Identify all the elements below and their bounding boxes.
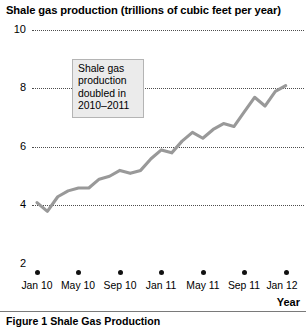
caption-divider [0, 311, 306, 312]
xtick-dot-jan-12 [284, 270, 289, 275]
xtick-dot-jan-11 [159, 270, 164, 275]
xtick-dot-may-10 [76, 270, 81, 275]
annotation-line-4: 2010–2011 [78, 100, 139, 112]
annotation-line-1: Shale gas [78, 63, 139, 75]
plot-area: 10 8 6 4 2 Shale gas production doubled … [0, 0, 306, 306]
xtick-label-jan-12: Jan 12 [255, 280, 306, 292]
xtick-dot-sep-10 [118, 270, 123, 275]
annotation-line-3: doubled in [78, 88, 139, 100]
xtick-dot-jan-10 [35, 270, 40, 275]
figure-shale-gas-production: Shale gas production (trillions of cubic… [0, 0, 306, 330]
xtick-dot-sep-11 [242, 270, 247, 275]
figure-caption: Figure 1 Shale Gas Production [6, 315, 160, 328]
annotation-callout: Shale gas production doubled in 2010–201… [72, 59, 144, 118]
x-axis-label: Year [277, 296, 300, 308]
data-series-line [0, 0, 306, 306]
xtick-dot-may-11 [201, 270, 206, 275]
annotation-line-2: production [78, 75, 139, 87]
